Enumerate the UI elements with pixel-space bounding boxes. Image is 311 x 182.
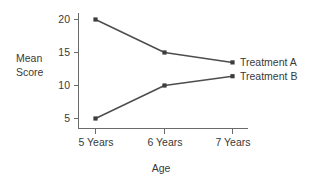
y-tick-label-20: 20 — [58, 13, 70, 25]
data-point-a-7-years — [230, 60, 234, 64]
x-axis-title: Age — [152, 162, 171, 174]
data-point-b-6-years — [162, 83, 166, 87]
data-point-a-5-years — [93, 17, 97, 21]
x-tick-label-5-years: 5 Years — [78, 136, 113, 148]
chart-axes — [79, 13, 249, 129]
y-axis-title-line1: Mean — [16, 52, 42, 64]
legend-label-treatment-b: Treatment B — [240, 70, 297, 82]
line-chart: 5 10 15 20 5 Years 6 Years 7 Years Mean … — [0, 0, 311, 182]
y-axis-ticks — [74, 20, 79, 119]
y-tick-label-10: 10 — [58, 79, 70, 91]
x-axis-ticks — [96, 129, 233, 135]
legend-label-treatment-a: Treatment A — [240, 56, 297, 68]
data-point-a-6-years — [162, 50, 166, 54]
y-tick-label-5: 5 — [64, 112, 70, 124]
series-line-treatment-b — [96, 76, 233, 118]
series-markers-treatment-a — [93, 17, 234, 64]
data-point-b-7-years — [230, 74, 234, 78]
series-markers-treatment-b — [93, 74, 234, 121]
x-tick-label-6-years: 6 Years — [147, 136, 182, 148]
y-tick-label-15: 15 — [58, 46, 70, 58]
data-point-b-5-years — [93, 116, 97, 120]
chart-canvas: 5 10 15 20 5 Years 6 Years 7 Years Mean … — [0, 0, 311, 182]
x-tick-label-7-years: 7 Years — [215, 136, 250, 148]
y-axis-title-line2: Score — [16, 66, 44, 78]
series-line-treatment-a — [96, 20, 233, 63]
